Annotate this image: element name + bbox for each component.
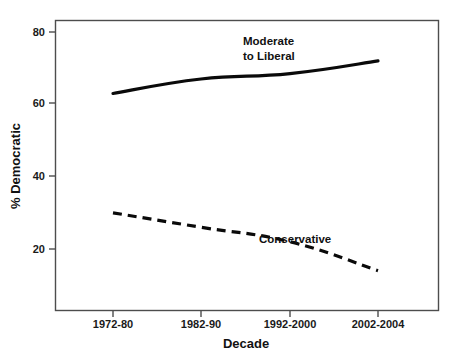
y-tick-label-40: 40 — [33, 170, 45, 182]
annotation-moderate-line2: to Liberal — [243, 50, 295, 62]
y-tick-label-80: 80 — [33, 26, 45, 38]
y-axis-title: % Democratic — [8, 123, 23, 209]
x-tick-label-3: 1992-2000 — [264, 318, 317, 330]
series-line-moderate-to-liberal — [113, 61, 378, 94]
series-line-conservative — [113, 213, 378, 271]
plot-frame — [56, 21, 439, 311]
x-axis-title: Decade — [223, 336, 269, 351]
x-tick-label-4: 2002-2004 — [352, 318, 405, 330]
x-tick-label-2: 1982-90 — [181, 318, 221, 330]
annotation-conservative: Conservative — [259, 233, 331, 245]
line-chart: 80 60 40 20 % Democratic 1972-80 1982-90… — [0, 0, 456, 359]
y-tick-label-20: 20 — [33, 243, 45, 255]
chart-page: 80 60 40 20 % Democratic 1972-80 1982-90… — [0, 0, 456, 359]
y-tick-label-60: 60 — [33, 97, 45, 109]
annotation-moderate-line1: Moderate — [243, 35, 294, 47]
x-tick-label-1: 1972-80 — [93, 318, 133, 330]
